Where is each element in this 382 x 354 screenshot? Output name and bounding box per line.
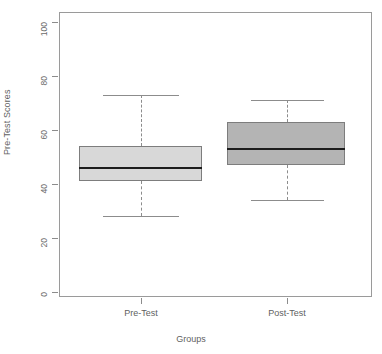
y-tick-label: 60: [39, 130, 49, 139]
x-axis-title: Groups: [0, 334, 382, 344]
y-tick-label-wrap: 40: [22, 184, 46, 185]
y-tick-mark: [52, 130, 58, 131]
y-tick-mark: [52, 238, 58, 239]
lower-whisker-line: [287, 165, 288, 200]
y-tick-label-wrap: 20: [22, 238, 46, 239]
y-tick-label-wrap: 60: [22, 130, 46, 131]
y-tick-label: 0: [39, 292, 49, 297]
box-iqr-rect: [79, 146, 202, 181]
upper-whisker-cap: [103, 95, 179, 96]
chart-title: [0, 0, 382, 6]
y-tick-mark: [52, 22, 58, 23]
y-tick-label: 40: [39, 184, 49, 193]
y-axis-title: Pre-Test Scores: [2, 89, 12, 155]
y-tick-mark: [52, 184, 58, 185]
y-tick-label-wrap: 100: [22, 22, 46, 23]
lower-whisker-cap: [251, 200, 324, 201]
y-tick-mark: [52, 292, 58, 293]
lower-whisker-line: [141, 181, 142, 216]
x-tick-label-pre-test: Pre-Test: [124, 308, 158, 318]
x-tick-mark: [141, 298, 142, 304]
lower-whisker-cap: [103, 216, 179, 217]
y-tick-label-wrap: 0: [22, 292, 46, 293]
upper-whisker-line: [287, 100, 288, 122]
upper-whisker-cap: [251, 100, 324, 101]
median-line: [79, 167, 202, 169]
y-tick-label: 80: [39, 76, 49, 85]
y-tick-label-wrap: 80: [22, 76, 46, 77]
median-line: [227, 148, 345, 150]
x-tick-label-post-test: Post-Test: [268, 308, 306, 318]
upper-whisker-line: [141, 95, 142, 146]
y-tick-label: 20: [39, 238, 49, 247]
boxplot-figure: Pre-Test Scores 020406080100 Pre-TestPos…: [0, 0, 382, 354]
box-iqr-rect: [227, 122, 345, 165]
y-tick-mark: [52, 76, 58, 77]
y-tick-label: 100: [39, 22, 49, 36]
x-tick-mark: [287, 298, 288, 304]
